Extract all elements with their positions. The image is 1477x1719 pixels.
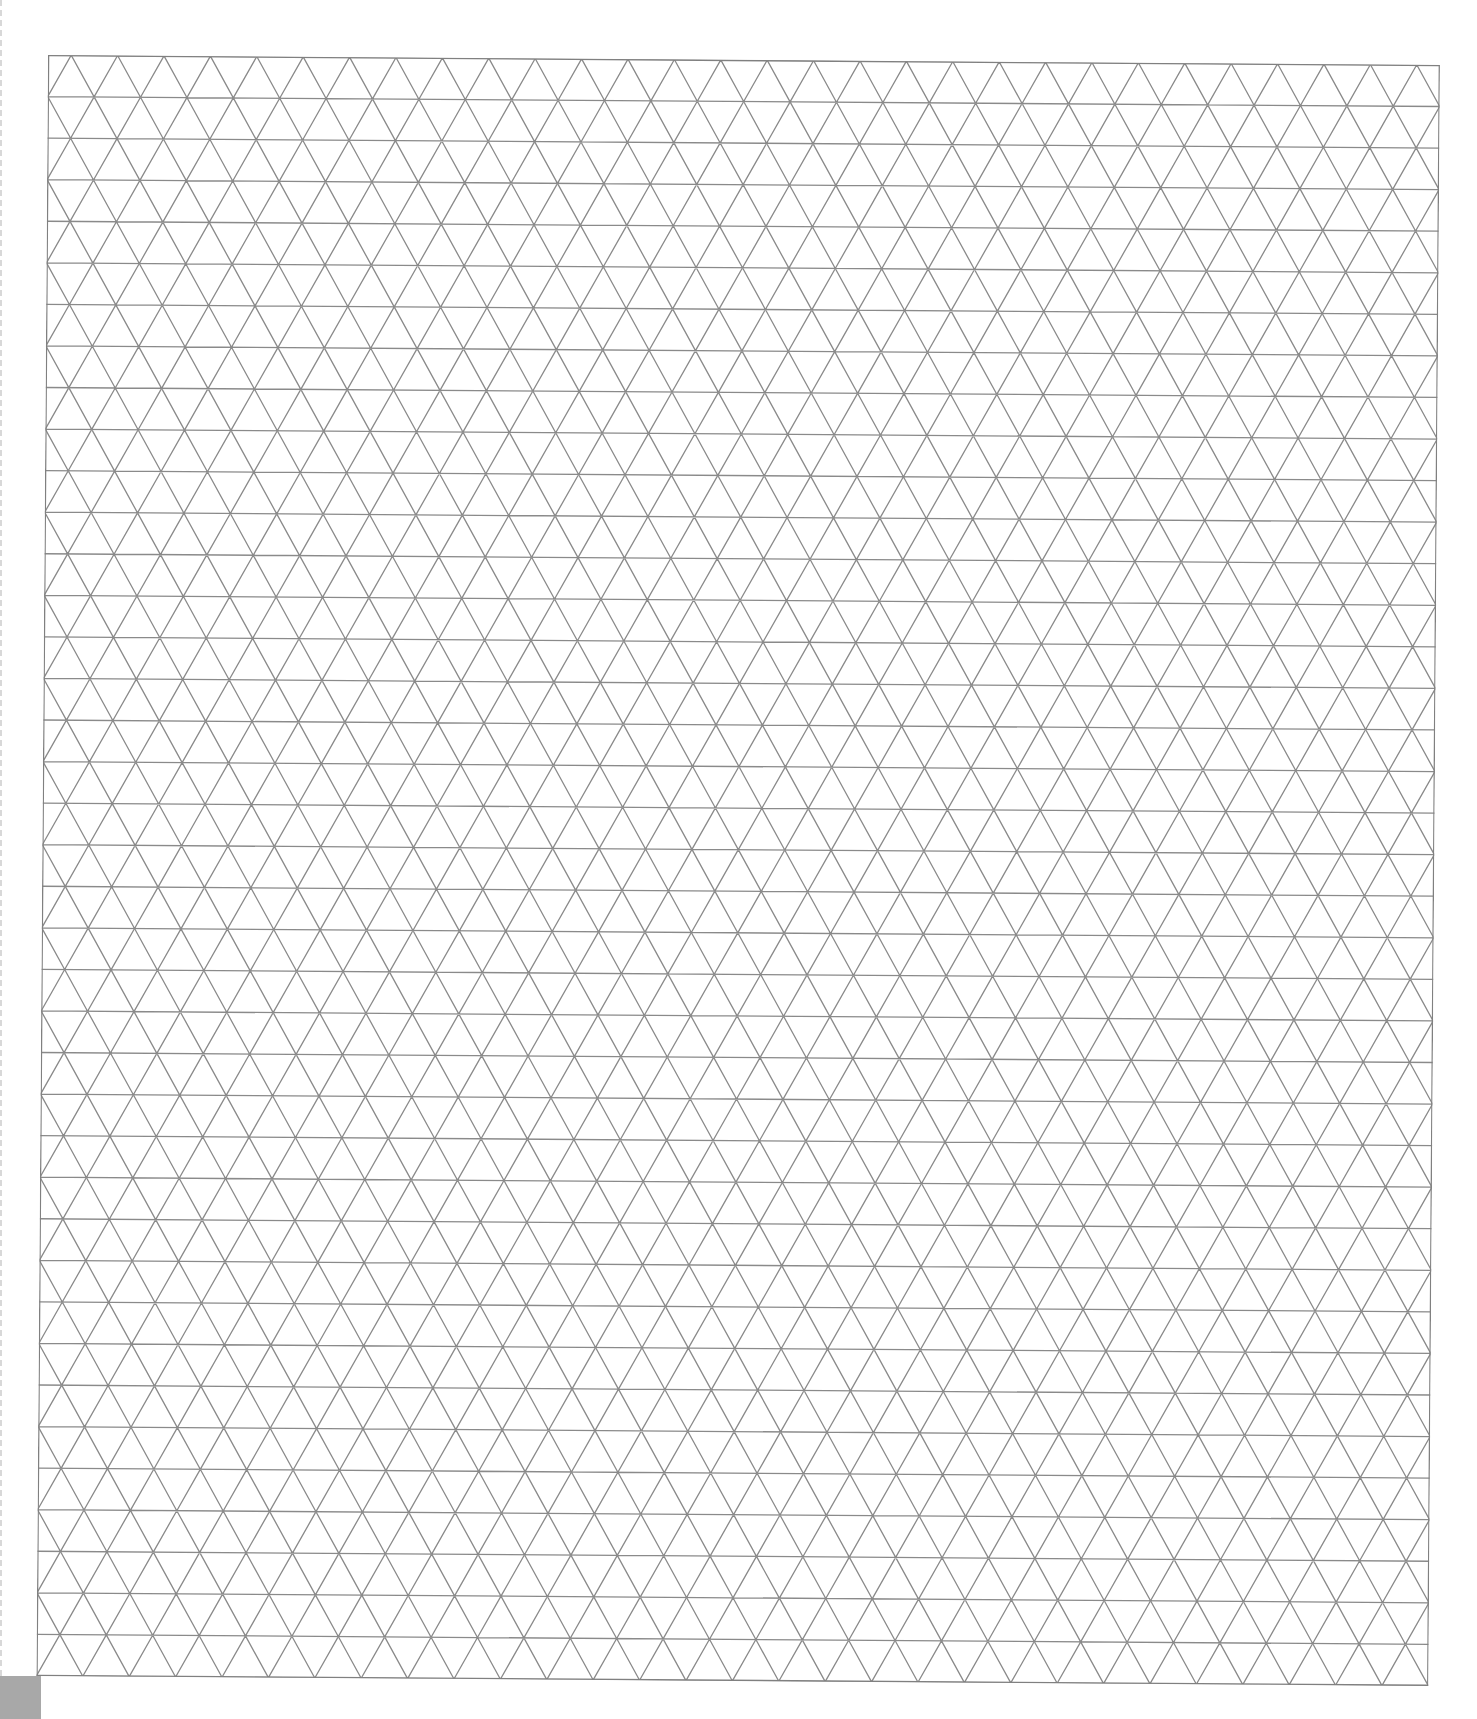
- page-edge-strip: [0, 0, 2, 1676]
- corner-block: [0, 1676, 41, 1719]
- grid-lines: [36, 55, 1440, 1686]
- grid-border: [37, 56, 1439, 1686]
- triangle-grid-sheet: [36, 55, 1440, 1686]
- triangle-grid: [36, 55, 1440, 1686]
